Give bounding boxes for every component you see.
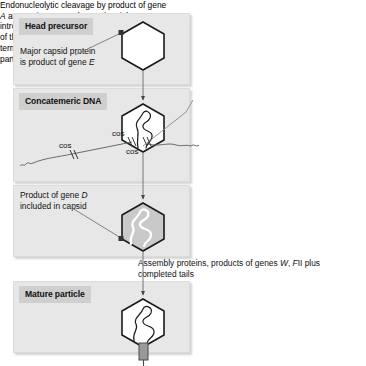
diagram-canvas: Head precursor Concatemeric DNA Mature p… bbox=[0, 0, 366, 366]
caption-line-2-text: is product of gene bbox=[20, 57, 89, 67]
gene-symbol-d: D bbox=[81, 190, 87, 200]
gene-symbol-e: E bbox=[89, 57, 95, 67]
assembly-text-part-1: Assembly proteins, products of genes bbox=[138, 258, 280, 268]
caption-line-1-text: Product of gene bbox=[20, 190, 81, 200]
caption-major-capsid-protein: Major capsid protein is product of gene … bbox=[20, 46, 95, 67]
caption-line-2: included in capsid bbox=[20, 201, 87, 211]
gene-symbol-w: W bbox=[280, 258, 288, 268]
panel-header-concatemeric-dna: Concatemeric DNA bbox=[19, 93, 107, 110]
panel-header-mature-particle: Mature particle bbox=[19, 286, 91, 303]
caption-product-gene-d: Product of gene D included in capsid bbox=[20, 190, 88, 211]
annotation-text-part-1: Endonucleolytic cleavage by product of g… bbox=[0, 0, 166, 10]
caption-line-1: Major capsid protein bbox=[20, 46, 95, 56]
panel-header-head-precursor: Head precursor bbox=[19, 18, 93, 35]
annotation-assembly-proteins: Assembly proteins, products of genes W, … bbox=[138, 258, 353, 279]
